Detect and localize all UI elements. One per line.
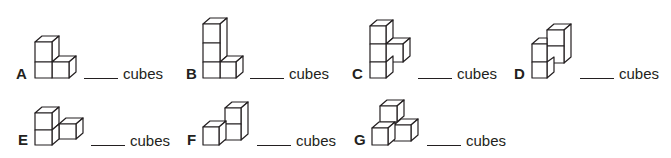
unit-label: cubes <box>130 133 170 148</box>
unit-label: cubes <box>289 66 329 81</box>
answer-blank[interactable] <box>91 145 125 146</box>
answer-blank[interactable] <box>84 78 118 79</box>
unit-label: cubes <box>457 66 497 81</box>
answer-blank[interactable] <box>418 78 452 79</box>
unit-label: cubes <box>123 66 163 81</box>
cube-figure-g-icon <box>0 0 1 1</box>
answer-blank[interactable] <box>257 145 291 146</box>
item-letter: C <box>352 66 363 81</box>
answer-blank[interactable] <box>427 145 461 146</box>
item-letter: G <box>354 132 366 147</box>
item-letter: A <box>16 66 27 81</box>
unit-label: cubes <box>619 66 659 81</box>
answer-blank[interactable] <box>580 78 614 79</box>
item-letter: D <box>514 66 525 81</box>
unit-label: cubes <box>296 133 336 148</box>
item-letter: F <box>187 132 196 147</box>
answer-blank[interactable] <box>250 78 284 79</box>
item-letter: E <box>18 132 28 147</box>
item-letter: B <box>186 66 197 81</box>
unit-label: cubes <box>466 133 506 148</box>
